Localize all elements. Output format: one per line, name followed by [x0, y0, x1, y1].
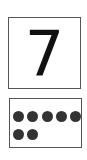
dot-icon	[13, 111, 24, 122]
dot-icon	[42, 111, 53, 122]
dot-count-card	[9, 98, 82, 148]
numeral-seven: 7	[25, 23, 64, 85]
dot-icon	[13, 129, 24, 140]
numeral-card: 7	[8, 17, 81, 89]
dot-icon	[56, 111, 67, 122]
dot-icon	[27, 111, 38, 122]
dot-icon	[27, 129, 38, 140]
dot-icon	[70, 111, 81, 122]
